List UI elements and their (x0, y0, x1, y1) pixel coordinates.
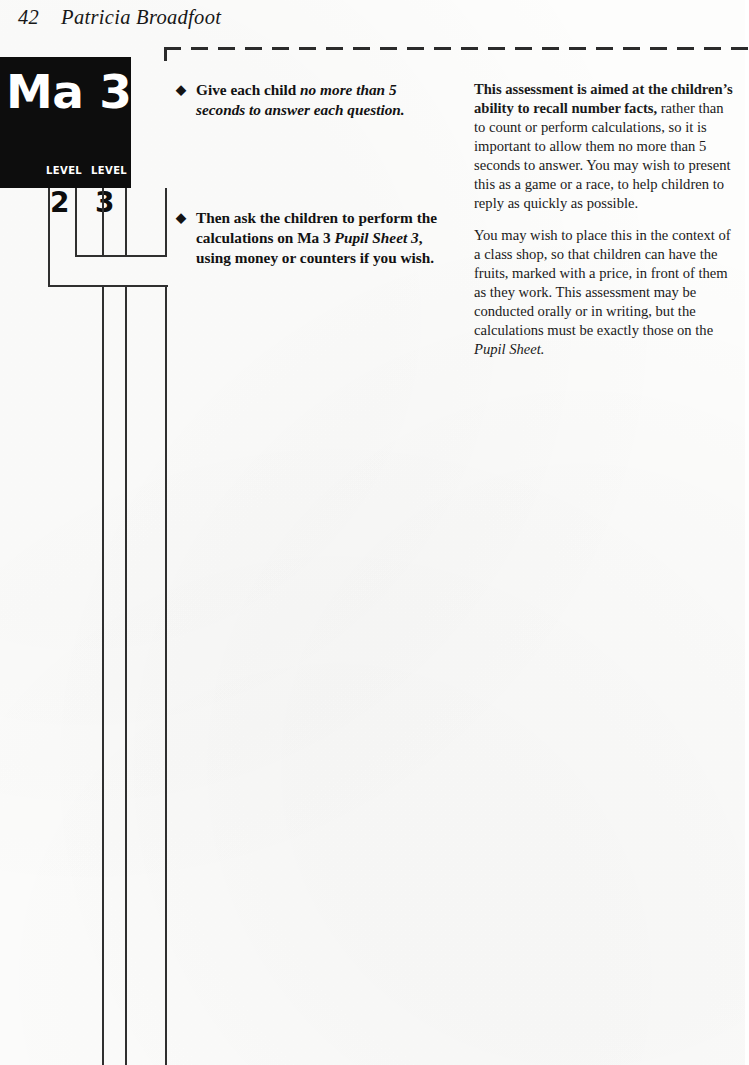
diamond-bullet-icon: ◆ (176, 209, 186, 227)
bullet-lead-text: Give each child (196, 81, 300, 98)
commentary-body: rather than to count or perform calculat… (474, 100, 731, 211)
column-rule-b (125, 286, 127, 1065)
running-header-author: Patricia Broadfoot (61, 6, 221, 29)
tab-box-right-rule (165, 188, 167, 256)
commentary-italic-tail: Pupil Sheet. (474, 341, 545, 357)
tab-box-left-rule (75, 188, 77, 256)
level-number-2: 2 (50, 189, 69, 217)
diamond-bullet-icon: ◆ (176, 81, 186, 99)
column-rule-a (102, 286, 104, 1065)
commentary-paragraph: This assessment is aimed at the children… (474, 80, 736, 213)
commentary-body: You may wish to place this in the contex… (474, 227, 731, 338)
bullet-item: ◆Then ask the children to perform the ca… (176, 208, 441, 268)
bullet-emphasis-text: Pupil Sheet 3 (335, 229, 419, 246)
bracket-step-vertical-rule (48, 188, 50, 286)
running-header: 42 Patricia Broadfoot (18, 0, 618, 34)
tab-box-inner-rule-b (125, 188, 127, 256)
column-rule-c (165, 286, 167, 1065)
ma3-logo-title: Ma 3 (6, 68, 128, 115)
bracket-step-horizontal-rule (48, 285, 168, 287)
level-number-3: 3 (95, 189, 114, 217)
level-label-left: LEVEL (46, 166, 82, 176)
commentary-paragraph: You may wish to place this in the contex… (474, 226, 736, 359)
instruction-bullet-list: ◆Give each child no more than 5 seconds … (176, 80, 441, 267)
bullet-item: ◆Give each child no more than 5 seconds … (176, 80, 441, 120)
level-label-right: LEVEL (91, 166, 127, 176)
page-folio-number: 42 (18, 6, 39, 29)
tab-box-bottom-rule (75, 255, 167, 257)
tab-box-inner-rule-a (102, 188, 104, 256)
commentary-column: This assessment is aimed at the children… (474, 80, 736, 359)
dashed-top-rule (164, 47, 749, 50)
